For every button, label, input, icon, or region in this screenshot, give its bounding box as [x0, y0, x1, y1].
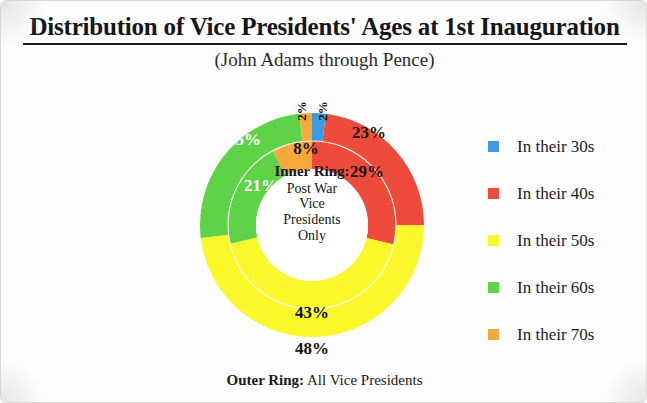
- chart-legend: In their 30s In their 40s In their 50s I…: [488, 123, 638, 358]
- legend-label-70s: In their 70s: [517, 325, 594, 345]
- legend-label-60s: In their 60s: [517, 278, 594, 298]
- caption-bold: Outer Ring:: [226, 372, 304, 388]
- legend-swatch-60s: [488, 282, 499, 293]
- double-donut-chart: Inner Ring: Post War Vice Presidents Onl…: [184, 97, 440, 353]
- legend-label-40s: In their 40s: [517, 184, 594, 204]
- legend-item-70s[interactable]: In their 70s: [488, 311, 638, 358]
- donut-hole: [256, 169, 368, 281]
- legend-swatch-40s: [488, 188, 499, 199]
- legend-swatch-50s: [488, 235, 499, 246]
- legend-item-50s[interactable]: In their 50s: [488, 217, 638, 264]
- legend-swatch-70s: [488, 329, 499, 340]
- legend-item-60s[interactable]: In their 60s: [488, 264, 638, 311]
- legend-swatch-30s: [488, 141, 499, 152]
- page-title: Distribution of Vice Presidents' Ages at…: [1, 13, 647, 41]
- legend-item-40s[interactable]: In their 40s: [488, 170, 638, 217]
- legend-label-30s: In their 30s: [517, 137, 594, 157]
- donut-svg: [184, 97, 440, 353]
- caption-rest: All Vice Presidents: [304, 372, 422, 388]
- chart-page: Distribution of Vice Presidents' Ages at…: [0, 0, 647, 403]
- legend-label-50s: In their 50s: [517, 231, 594, 251]
- page-subtitle: (John Adams through Pence): [1, 49, 647, 71]
- chart-caption: Outer Ring: All Vice Presidents: [1, 372, 647, 389]
- title-underline: [23, 43, 627, 45]
- legend-item-30s[interactable]: In their 30s: [488, 123, 638, 170]
